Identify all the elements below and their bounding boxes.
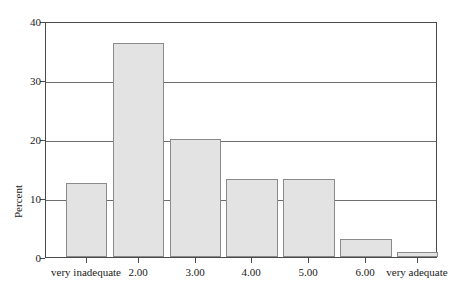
x-tick-mark xyxy=(195,258,196,263)
x-tick-mark xyxy=(308,258,309,263)
y-axis-title: Percent xyxy=(13,172,24,232)
x-tick-label-very-adequate: very adequate xyxy=(386,266,447,279)
x-tick-mark xyxy=(86,258,87,263)
plot-area xyxy=(45,22,437,258)
x-tick-label-6: 6.00 xyxy=(355,266,374,279)
bar-5 xyxy=(283,179,335,257)
bar-6 xyxy=(340,239,392,257)
x-tick-mark xyxy=(365,258,366,263)
percent-bar-chart: 40 30 20 10 0 Percent very inadequate 2 xyxy=(0,0,453,298)
bar-very-inadequate xyxy=(66,183,107,257)
x-tick-label-3: 3.00 xyxy=(185,266,204,279)
y-tick-label-0: 0 xyxy=(11,253,41,264)
x-tick-label-4: 4.00 xyxy=(241,266,260,279)
x-tick-label-2: 2.00 xyxy=(128,266,147,279)
x-tick-mark xyxy=(417,258,418,263)
y-tick-label-40: 40 xyxy=(11,17,41,28)
x-tick-mark xyxy=(251,258,252,263)
bar-2 xyxy=(113,43,164,257)
y-tick-label-20: 20 xyxy=(11,135,41,146)
y-tick-label-30: 30 xyxy=(11,76,41,87)
x-tick-label-5: 5.00 xyxy=(298,266,317,279)
x-tick-mark xyxy=(138,258,139,263)
x-tick-label-very-inadequate: very inadequate xyxy=(51,266,121,279)
bar-very-adequate xyxy=(397,252,438,257)
x-axis: very inadequate 2.00 3.00 4.00 5.00 6.00… xyxy=(45,258,437,288)
bar-4 xyxy=(226,179,278,257)
bar-3 xyxy=(170,139,221,257)
bars-layer xyxy=(46,23,436,257)
